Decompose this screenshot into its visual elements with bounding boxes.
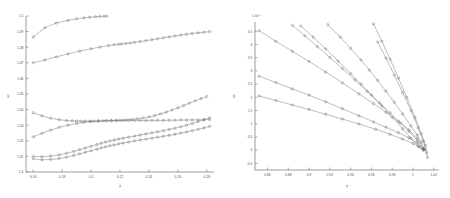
data-series	[32, 30, 211, 63]
data-series	[258, 30, 425, 150]
data-series	[32, 15, 108, 38]
left-y-axis-label: ω	[5, 94, 10, 98]
y-tick-label: 0.5	[248, 135, 253, 139]
y-tick-label: 1.43	[17, 124, 24, 128]
y-tick-label: 1.5	[248, 109, 253, 113]
left-axes	[26, 16, 214, 172]
y-tick-label: 1.47	[17, 61, 24, 65]
series-line	[33, 118, 209, 157]
data-point-marker	[32, 136, 34, 138]
y-tick-label: 2.5	[248, 82, 253, 86]
y-tick-label: 1.41	[17, 155, 24, 159]
data-point-marker	[291, 24, 293, 26]
data-point-marker	[300, 25, 302, 27]
y-tick-label: 3.5	[248, 56, 253, 60]
x-tick-label: 0.18	[59, 175, 66, 179]
series-line	[374, 24, 428, 158]
y-tick-label: 3	[251, 69, 253, 73]
y-tick-label: 1.46	[17, 77, 24, 81]
x-tick-label: 1	[412, 173, 414, 177]
x-tick-label: 0.92	[327, 173, 334, 177]
y-tick-label: 2	[251, 96, 253, 100]
right-y-axis-label: ω	[231, 94, 236, 98]
x-tick-label: 1.02	[430, 173, 437, 177]
data-point-marker	[206, 95, 208, 97]
y-tick-label: 1.4	[19, 170, 24, 174]
y-tick-label: 4	[251, 43, 253, 47]
data-series	[32, 117, 211, 158]
x-tick-label: 0.26	[175, 175, 182, 179]
y-tick-label: 1.5	[19, 14, 24, 18]
x-tick-label: 0.16	[30, 175, 37, 179]
x-tick-label: 0.94	[347, 173, 354, 177]
y-tick-label: 1.48	[17, 46, 24, 50]
y-tick-label: 1.42	[17, 139, 24, 143]
y-tick-label: 1.44	[17, 108, 24, 112]
data-point-marker	[32, 112, 34, 114]
x-tick-label: 0.28	[203, 175, 210, 179]
left-y-ticks: 1.41.411.421.431.441.451.461.471.481.491…	[17, 14, 29, 174]
data-series	[32, 125, 211, 161]
left-plot-svg: 0.160.180.20.220.240.260.28 1.41.411.421…	[0, 0, 225, 198]
y-tick-label: 4.5	[248, 30, 253, 34]
series-line	[33, 32, 209, 63]
x-tick-label: 0.24	[146, 175, 153, 179]
right-plot-panel: 0.860.880.90.920.940.960.9811.02 -0.500.…	[225, 0, 450, 198]
left-plot-panel: 0.160.180.20.220.240.260.28 1.41.411.421…	[0, 0, 225, 198]
right-y-ticks: -0.500.511.522.533.544.5	[247, 30, 258, 166]
x-tick-label: 0.86	[264, 173, 271, 177]
x-tick-label: 0.98	[389, 173, 396, 177]
x-tick-label: 0.9	[307, 173, 312, 177]
y-tick-label: 1.49	[17, 30, 24, 34]
data-point-marker	[327, 23, 329, 25]
right-y-exponent-label: x 10-3	[252, 14, 261, 18]
series-line	[301, 26, 424, 150]
x-tick-label: 0.22	[117, 175, 124, 179]
left-data-series	[32, 15, 211, 161]
left-x-axis-label: T	[119, 184, 122, 189]
data-series	[32, 118, 211, 138]
x-tick-label: 0.88	[285, 173, 292, 177]
y-tick-label: 1	[251, 122, 253, 126]
y-tick-label: 0	[251, 148, 253, 152]
y-tick-label: 1.45	[17, 92, 24, 96]
x-tick-label: 0.96	[368, 173, 375, 177]
right-plot-svg: 0.860.880.90.920.940.960.9811.02 -0.500.…	[225, 0, 450, 198]
right-x-axis-label: T	[346, 184, 349, 189]
data-point-marker	[32, 36, 34, 38]
data-series	[300, 25, 425, 152]
series-line	[292, 25, 423, 149]
y-tick-label: -0.5	[247, 162, 253, 166]
data-series	[32, 95, 208, 122]
right-x-ticks: 0.860.880.90.920.940.960.9811.02	[264, 168, 437, 178]
series-line	[33, 97, 207, 122]
figure-container: 0.160.180.20.220.240.260.28 1.41.411.421…	[0, 0, 450, 198]
series-line	[259, 76, 423, 149]
left-x-ticks: 0.160.180.20.220.240.260.28	[30, 170, 210, 180]
series-line	[259, 96, 423, 150]
right-data-series	[258, 23, 429, 159]
x-tick-label: 0.2	[89, 175, 94, 179]
data-series	[291, 24, 424, 151]
series-line	[259, 31, 423, 149]
data-series	[377, 41, 428, 154]
